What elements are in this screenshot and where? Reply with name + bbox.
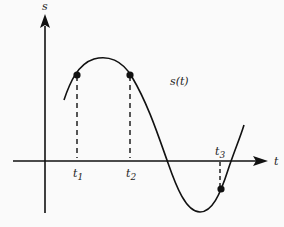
t1-label: t1	[73, 167, 83, 182]
point-t1	[73, 71, 80, 78]
t3-label: t3	[215, 145, 225, 160]
s-axis-arrowhead	[40, 14, 50, 28]
point-t3	[217, 185, 224, 192]
s-axis-label: s	[42, 0, 48, 13]
position-time-diagram: s t s(t) t1 t2 t3	[0, 0, 284, 227]
t-axis-label: t	[274, 155, 279, 168]
s-of-t-curve	[64, 58, 244, 212]
t2-label: t2	[126, 167, 136, 182]
point-t2	[126, 71, 133, 78]
curve-label: s(t)	[170, 75, 189, 88]
